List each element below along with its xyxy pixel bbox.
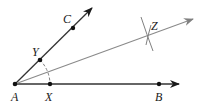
- bisector-ray-az: [15, 19, 193, 84]
- ray-ac: [15, 8, 92, 84]
- point-a: [13, 82, 18, 87]
- label-x: X: [44, 90, 53, 104]
- point-b: [157, 82, 161, 86]
- label-a: A: [10, 90, 19, 104]
- label-c: C: [63, 12, 72, 26]
- point-x: [48, 82, 52, 86]
- label-y: Y: [32, 45, 40, 59]
- label-b: B: [155, 90, 163, 104]
- angle-bisector-diagram: A X B Y C Z: [0, 0, 206, 105]
- label-z: Z: [151, 19, 158, 33]
- point-c: [71, 26, 75, 30]
